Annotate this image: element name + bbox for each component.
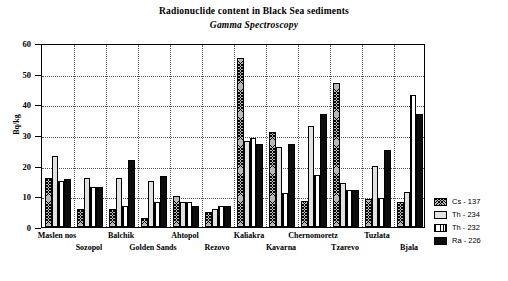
bar — [128, 160, 134, 227]
legend-item: Cs - 137 — [434, 196, 506, 209]
bar-group — [362, 45, 394, 227]
y-tick-label: 10 — [5, 192, 31, 202]
x-axis-label: Tuzlata — [337, 231, 417, 240]
bar — [192, 206, 198, 227]
legend-swatch — [434, 198, 447, 206]
chart-title: Radionuclide content in Black Sea sedime… — [0, 6, 508, 16]
y-tick-mark — [35, 228, 41, 229]
chart-subtitle: Gamma Spectroscopy — [0, 20, 508, 30]
bar — [256, 144, 262, 227]
legend-label: Cs - 137 — [452, 197, 480, 206]
bar-group — [266, 45, 298, 227]
bar — [384, 150, 390, 227]
y-tick-label: 40 — [5, 100, 31, 110]
y-tick-label: 50 — [5, 70, 31, 80]
bar — [224, 206, 230, 227]
legend-swatch — [434, 224, 447, 232]
bar-group — [394, 45, 426, 227]
legend-label: Th - 232 — [452, 223, 480, 232]
bar-group — [298, 45, 330, 227]
legend-swatch — [434, 211, 447, 219]
legend-swatch — [434, 237, 447, 245]
bar-group — [74, 45, 106, 227]
bar-group — [106, 45, 138, 227]
bar-group — [138, 45, 170, 227]
bar-group — [330, 45, 362, 227]
bar — [64, 179, 70, 227]
legend-item: Ra - 226 — [434, 235, 506, 248]
chart-legend: Cs - 137Th - 234Th - 232Ra - 226 — [434, 196, 506, 248]
y-tick-label: 30 — [5, 131, 31, 141]
bar — [288, 144, 294, 227]
bar-group — [234, 45, 266, 227]
bar-group — [42, 45, 74, 227]
bar-group — [202, 45, 234, 227]
legend-label: Ra - 226 — [452, 236, 481, 245]
legend-item: Th - 234 — [434, 209, 506, 222]
bar — [320, 114, 326, 227]
plot-area — [41, 44, 425, 228]
chart-canvas: Radionuclide content in Black Sea sedime… — [0, 0, 508, 281]
legend-item: Th - 232 — [434, 222, 506, 235]
bar — [96, 187, 102, 227]
bar — [160, 176, 166, 227]
y-tick-label: 20 — [5, 162, 31, 172]
bar-group — [170, 45, 202, 227]
bar — [352, 190, 358, 227]
y-tick-label: 60 — [5, 39, 31, 49]
legend-label: Th - 234 — [452, 210, 480, 219]
bar — [416, 114, 422, 227]
